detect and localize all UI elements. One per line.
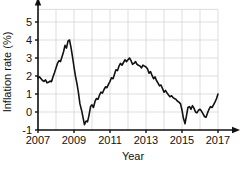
y-tick-label: 1 [26,88,32,100]
y-axis-title: Inflation rate (%) [1,32,13,113]
x-axis-title: Year [122,150,145,162]
x-tick-label: 2011 [98,134,122,146]
chart-canvas: -1012345 200720092011201320152017 Inflat… [0,0,247,169]
y-tick-label: 4 [26,34,32,46]
inflation-rate-chart-figure: -1012345 200720092011201320152017 Inflat… [0,0,247,169]
x-tick-label: 2013 [134,134,158,146]
y-tick-label: 3 [26,52,32,64]
x-tick-label: 2009 [62,134,86,146]
y-tick-label: 2 [26,70,32,82]
y-tick-label: 0 [26,106,32,118]
x-tick-label: 2015 [170,134,194,146]
x-tick-label: 2007 [26,134,50,146]
x-tick-label: 2017 [206,134,230,146]
y-tick-label: 5 [26,16,32,28]
